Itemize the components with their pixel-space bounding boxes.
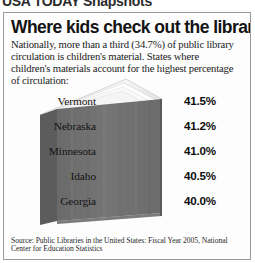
value-label-list: 41.5% 41.2% 41.0% 40.5% 40.0% [184,69,250,229]
state-label-vermont: Vermont [57,95,96,107]
state-label-georgia: Georgia [60,195,96,207]
usa-today-snapshot: USA TODAY Snapshots Where kids check out… [0,0,255,263]
value-label-nebraska: 41.2% [184,119,216,132]
value-label-georgia: 40.0% [184,194,216,207]
value-label-minnesota: 41.0% [184,144,216,157]
state-label-minnesota: Minnesota [49,145,96,157]
chart-area: Vermont Nebraska Minnesota Idaho Georgia… [4,69,250,229]
state-label-list: Vermont Nebraska Minnesota Idaho Georgia [4,69,96,229]
value-label-vermont: 41.5% [184,94,216,107]
masthead-title: USA TODAY Snapshots [2,0,152,9]
page-title: Where kids check out the library [11,17,244,37]
source-note: Source: Public Libraries in the United S… [11,237,243,254]
state-label-idaho: Idaho [71,170,96,182]
masthead: USA TODAY Snapshots [0,0,255,11]
value-label-idaho: 40.5% [184,169,216,182]
state-label-nebraska: Nebraska [54,120,96,132]
snapshot-panel: Where kids check out the library Nationa… [3,12,251,260]
